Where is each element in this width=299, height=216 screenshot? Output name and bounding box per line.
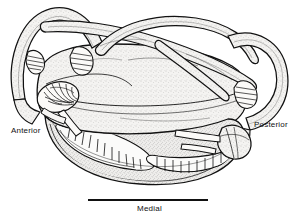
label-posterior: Posterior [254,121,288,129]
anterior-canal-base [14,99,40,124]
label-medial: Medial [0,205,299,213]
figure-page: Anterior Posterior Medial [0,0,299,216]
lateral-ampulla-crista-left [26,50,45,74]
lagena-otolith-organ [218,125,251,159]
label-anterior: Anterior [11,127,41,135]
crista-left-outline [26,50,45,74]
scale-bar [88,199,208,201]
inner-ear-labyrinth-illustration [0,0,299,216]
